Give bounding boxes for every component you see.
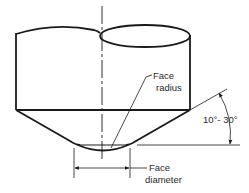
face-radius-label-1: Face bbox=[153, 70, 174, 81]
cylinder-body bbox=[16, 25, 190, 110]
face-radius-leader-tick bbox=[146, 75, 152, 77]
face-diameter-label-2: diameter bbox=[145, 174, 182, 185]
angle-ref-inclined bbox=[190, 89, 227, 110]
face-diameter-label-1: Face bbox=[149, 162, 170, 173]
angle-label: 10°- 30° bbox=[203, 114, 238, 125]
conical-tip bbox=[16, 110, 190, 151]
tool-diagram: Face radius 10°- 30° Face diameter bbox=[0, 0, 249, 193]
face-radius-label-2: radius bbox=[156, 82, 182, 93]
